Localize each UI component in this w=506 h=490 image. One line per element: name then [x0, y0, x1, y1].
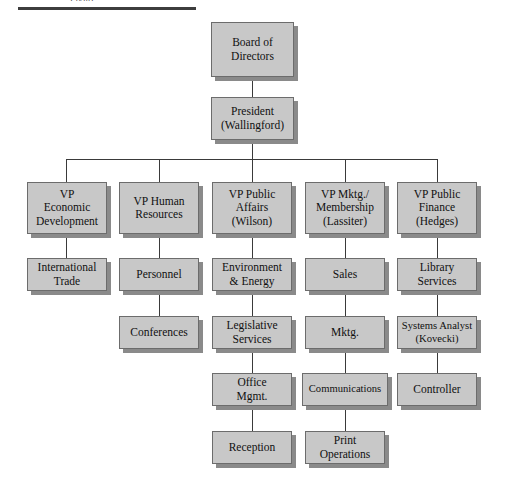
node-systems-analyst[interactable]: Systems Analyst (Kovecki) — [397, 316, 477, 349]
connector-vp-finance-library — [437, 234, 438, 258]
connector-vp-econ-international-trade — [66, 234, 67, 258]
connector-library-systems-analyst — [437, 291, 438, 316]
connector-mktg-communications — [345, 349, 346, 373]
connector-vp-hr-personnel — [159, 234, 160, 258]
connector-systems-analyst-controller — [437, 349, 438, 373]
header-rule — [18, 7, 196, 10]
figure-caption: Figure — [70, 0, 96, 1]
node-personnel[interactable]: Personnel — [119, 258, 199, 291]
node-controller[interactable]: Controller — [397, 373, 477, 406]
connector-bus-vp-mktg — [345, 159, 346, 182]
connector-board-president — [252, 77, 253, 97]
connector-legislative-office-mgmt — [252, 349, 253, 373]
node-library-services[interactable]: Library Services — [397, 258, 477, 291]
connector-bus-vp-finance — [437, 159, 438, 182]
connector-president-bus — [252, 140, 253, 159]
node-communications[interactable]: Communications — [302, 373, 388, 406]
node-marketing[interactable]: Mktg. — [305, 316, 385, 349]
node-legislative-services[interactable]: Legislative Services — [212, 316, 292, 349]
node-international-trade[interactable]: International Trade — [27, 258, 107, 291]
connector-sales-mktg — [345, 291, 346, 316]
node-print-operations[interactable]: Print Operations — [305, 431, 385, 464]
node-vp-human-resources[interactable]: VP Human Resources — [119, 182, 199, 234]
node-office-management[interactable]: Office Mgmt. — [212, 373, 292, 406]
connector-bus-vp-public-affairs — [252, 159, 253, 182]
node-board-of-directors[interactable]: Board of Directors — [211, 22, 294, 77]
connector-communications-print — [345, 406, 346, 431]
node-environment-energy[interactable]: Environment & Energy — [212, 258, 292, 291]
node-reception[interactable]: Reception — [212, 431, 292, 464]
connector-office-mgmt-reception — [252, 406, 253, 431]
connector-vp-mktg-sales — [345, 234, 346, 258]
node-vp-public-finance[interactable]: VP Public Finance (Hedges) — [397, 182, 477, 234]
node-vp-marketing-membership[interactable]: VP Mktg./ Membership (Lassiter) — [305, 182, 385, 234]
node-vp-economic-development[interactable]: VP Economic Development — [27, 182, 107, 234]
node-conferences[interactable]: Conferences — [119, 316, 199, 349]
connector-personnel-conferences — [159, 291, 160, 316]
connector-environment-legislative — [252, 291, 253, 316]
node-vp-public-affairs[interactable]: VP Public Affairs (Wilson) — [212, 182, 292, 234]
connector-vp-pa-environment — [252, 234, 253, 258]
org-chart-canvas: Figure Board of Directors President (Wal… — [0, 0, 506, 490]
connector-bus-vp-hr — [159, 159, 160, 182]
node-sales[interactable]: Sales — [305, 258, 385, 291]
node-president[interactable]: President (Wallingford) — [211, 97, 294, 140]
connector-bus-vp-econ — [66, 159, 67, 182]
